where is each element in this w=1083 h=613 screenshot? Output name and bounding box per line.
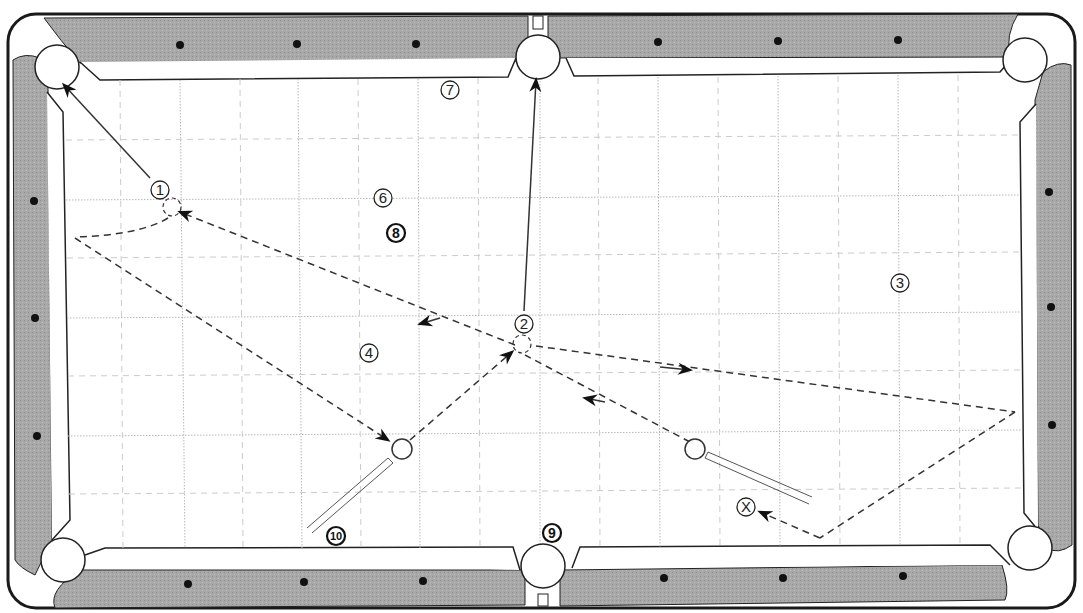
diamond-icon: [300, 578, 308, 586]
svg-text:1: 1: [156, 181, 164, 198]
svg-text:2: 2: [520, 315, 528, 332]
diamond-icon: [419, 577, 427, 585]
pocket-top-middle: [516, 35, 560, 79]
svg-text:3: 3: [896, 274, 904, 291]
label-4: 4: [360, 344, 378, 362]
diamond-icon: [1048, 421, 1056, 429]
svg-text:9: 9: [548, 525, 556, 541]
label-2: 2: [515, 315, 533, 333]
diamond-icon: [176, 41, 184, 49]
svg-text:7: 7: [446, 81, 454, 98]
bottom-left-rail: [54, 570, 525, 608]
pocket-bottom-right: [1008, 526, 1052, 570]
diamond-icon: [1047, 303, 1055, 311]
label-10: 10: [327, 527, 345, 545]
diamond-icon: [412, 40, 420, 48]
diamond-icon: [894, 36, 902, 44]
top-right-rail: [548, 14, 1018, 58]
diamond-icon: [31, 314, 39, 322]
svg-text:10: 10: [330, 530, 342, 542]
cue-ball-right: [685, 439, 705, 459]
diamond-icon: [30, 197, 38, 205]
label-3: 3: [891, 274, 909, 292]
table-frame: [8, 14, 1075, 608]
label-9: 9: [543, 524, 561, 542]
diamond-icon: [184, 580, 192, 588]
svg-text:6: 6: [379, 189, 387, 206]
diamond-icon: [774, 37, 782, 45]
diamond-icon: [654, 38, 662, 46]
svg-text:X: X: [741, 498, 751, 515]
label-1: 1: [151, 181, 169, 199]
label-8: 8: [387, 224, 405, 242]
label-x: X: [737, 498, 755, 516]
diamond-icon: [293, 40, 301, 48]
pocket-top-middle-tab: [533, 16, 543, 29]
diamond-icon: [1045, 188, 1053, 196]
bottom-right-rail: [560, 565, 1007, 606]
pocket-bottom-middle-tab: [538, 594, 548, 606]
cushion-bottom-right: [572, 545, 1010, 568]
pocket-bottom-left: [41, 538, 85, 582]
top-left-rail: [44, 16, 528, 63]
pocket-top-right: [1003, 38, 1047, 82]
label-7: 7: [441, 81, 459, 99]
cue-ball-left: [392, 439, 412, 459]
svg-text:4: 4: [365, 344, 373, 361]
diamond-icon: [899, 572, 907, 580]
svg-text:8: 8: [392, 225, 400, 241]
pocket-top-left: [35, 45, 79, 89]
pool-table-diagram: 1 2 3 4 6 7 8 9: [0, 0, 1083, 613]
pocket-bottom-middle: [521, 544, 565, 588]
diamond-icon: [660, 574, 668, 582]
label-6: 6: [374, 189, 392, 207]
diamond-icon: [779, 574, 787, 582]
diamond-icon: [33, 432, 41, 440]
